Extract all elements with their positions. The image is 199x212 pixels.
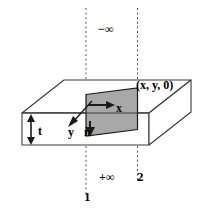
label-axis-y: y [68,126,74,138]
label-boundary-2: 2 [137,170,144,183]
label-boundary-1: 1 [84,190,91,203]
label-normal-vector: n [84,126,91,138]
slab-diagram-figure: −∞ +∞ 1 2 (x, y, 0) x y n t [0,0,199,212]
label-axis-x: x [116,102,122,114]
label-point-coordinates: (x, y, 0) [136,79,173,91]
label-thickness: t [38,125,42,137]
label-infinity-negative: −∞ [98,23,113,35]
label-infinity-positive: +∞ [99,171,114,183]
